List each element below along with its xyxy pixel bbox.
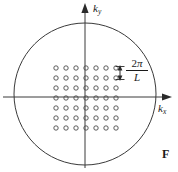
k-state-dot — [84, 76, 88, 80]
y-axis-label-subscript: y — [98, 7, 101, 16]
k-state-dot — [64, 126, 68, 130]
pi-symbol: π — [137, 57, 143, 69]
k-state-dot — [64, 86, 68, 90]
k-state-dot — [104, 106, 108, 110]
x-axis-label-subscript: x — [163, 107, 166, 116]
k-state-dot — [104, 126, 108, 130]
k-state-dot — [84, 126, 88, 130]
k-state-dot — [64, 66, 68, 70]
figure-canvas — [0, 0, 178, 172]
k-state-dot — [94, 96, 98, 100]
k-state-dot — [114, 106, 118, 110]
k-state-dot — [84, 106, 88, 110]
k-state-dot — [84, 66, 88, 70]
k-state-dot — [54, 86, 58, 90]
k-state-dot — [74, 126, 78, 130]
k-state-dot — [104, 86, 108, 90]
k-state-dot — [64, 106, 68, 110]
figure-caption-stub: F — [162, 148, 169, 160]
k-state-dot — [74, 76, 78, 80]
k-state-dot — [114, 126, 118, 130]
spacing-annotation-label: 2π L — [122, 58, 152, 83]
k-state-dot — [54, 66, 58, 70]
k-state-dot — [74, 96, 78, 100]
k-state-dot — [54, 116, 58, 120]
k-state-dot — [64, 76, 68, 80]
k-state-dot — [94, 126, 98, 130]
k-state-dot — [104, 116, 108, 120]
k-state-dot — [104, 76, 108, 80]
k-state-dot — [94, 76, 98, 80]
spacing-numerator: 2π — [122, 58, 152, 70]
k-state-dot — [74, 66, 78, 70]
k-state-dot — [94, 106, 98, 110]
spacing-denominator: L — [122, 71, 152, 83]
x-axis-arrowhead — [162, 93, 172, 100]
k-state-dot — [64, 96, 68, 100]
k-state-dot — [84, 86, 88, 90]
y-axis-label: ky — [93, 3, 101, 16]
k-state-dot — [94, 66, 98, 70]
k-state-dot — [54, 76, 58, 80]
k-state-dot — [64, 116, 68, 120]
k-state-dot — [74, 86, 78, 90]
k-state-dot — [104, 66, 108, 70]
k-state-dot — [104, 96, 108, 100]
k-state-dot — [114, 96, 118, 100]
k-state-dot — [94, 86, 98, 90]
k-state-dot — [114, 116, 118, 120]
k-state-dot — [84, 96, 88, 100]
x-axis-label: kx — [158, 103, 166, 116]
k-state-dot — [54, 106, 58, 110]
k-state-lattice — [54, 66, 118, 130]
k-state-dot — [54, 126, 58, 130]
k-state-dot — [114, 86, 118, 90]
k-state-dot — [74, 116, 78, 120]
k-space-figure: ky kx 2π L F — [0, 0, 178, 172]
y-axis-arrowhead — [81, 3, 88, 13]
k-state-dot — [84, 116, 88, 120]
k-state-dot — [94, 116, 98, 120]
k-state-dot — [74, 106, 78, 110]
k-state-dot — [54, 96, 58, 100]
